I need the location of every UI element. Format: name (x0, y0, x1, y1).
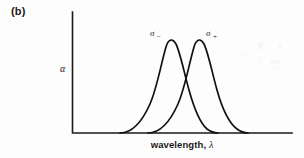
axis-lines (73, 12, 293, 133)
x-axis-label-text: wavelength, (151, 139, 206, 150)
curve-label-sigma-plus: σ + (206, 28, 217, 41)
curve-label-sigma-minus: σ − (150, 28, 161, 41)
curve-label-sigma-plus-sub: + (213, 33, 217, 41)
curve-label-sigma-minus-sub: − (157, 33, 161, 41)
x-axis-label: wavelength, λ (72, 139, 292, 150)
curve-label-sigma-minus-base: σ (150, 28, 155, 38)
plot-area: α σ − σ + (0, 0, 304, 158)
curve-sigma-plus (148, 40, 248, 133)
x-axis-label-symbol: λ (209, 139, 213, 150)
y-axis-label: α (60, 63, 66, 74)
curve-label-sigma-plus-base: σ (206, 28, 211, 38)
figure-panel-b: (b) α σ − σ + wavelength, λ (0, 0, 304, 158)
